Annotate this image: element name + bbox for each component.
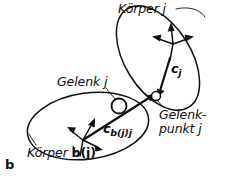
leader-body-j [176,8,205,17]
label-vector-cbjj-subscript: b(j)j [110,127,132,138]
label-vector-cj-subscript: j [178,67,181,78]
label-joint-point-j: Gelenk- punkt j [159,108,207,136]
label-joint-point-j-line2: punkt j [159,122,207,136]
label-body-j: Körper j [118,2,166,15]
label-joint-point-j-line1: Gelenk- [159,108,207,122]
label-body-bj-prefix: Körper [27,145,72,160]
label-body-bj: Körper b(j) [27,146,96,159]
arrow-head-icon [185,35,194,42]
leader-body-bj [29,134,36,145]
small-open-circle-icon [152,92,161,101]
figure-container: Körper j Gelenk j Gelenk- punkt j Körper… [0,0,225,185]
label-body-bj-suffix: b(j) [72,145,96,160]
figure-part-label: b [5,158,14,172]
label-vector-cbjj: cb(j)j [103,122,132,138]
open-circle-icon [112,99,127,114]
vector-cj-shaft [159,58,170,94]
arrow-head-icon [88,118,95,127]
label-joint-j: Gelenk j [57,75,107,88]
arrow-head-icon [152,35,161,42]
body-j-coordinate-frame [152,22,194,60]
arrow-head-icon [95,145,103,152]
label-vector-cj: cj [171,62,181,78]
